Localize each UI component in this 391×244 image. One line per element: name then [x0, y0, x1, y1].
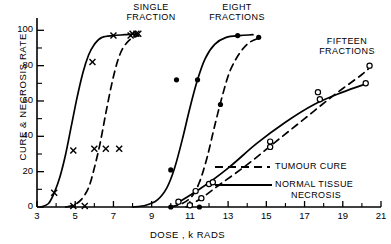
data-point-open	[176, 199, 181, 204]
legend-label-tumour-cure: TUMOUR CURE	[275, 161, 347, 172]
data-point-open	[199, 196, 204, 201]
data-point-open	[367, 63, 372, 68]
annotation-fifteen-fractions: FIFTEEN FRACTIONS	[308, 36, 386, 56]
data-point-filled	[256, 35, 261, 40]
data-point-filled	[168, 167, 173, 172]
y-tick-label: 20	[0, 165, 33, 176]
x-tick-label: 11	[180, 210, 200, 221]
y-tick-label: 100	[0, 23, 33, 34]
x-tick-label: 3	[27, 210, 47, 221]
x-tick-label: 15	[256, 210, 276, 221]
x-tick-label: 19	[333, 210, 353, 221]
y-tick-label: 60	[0, 94, 33, 105]
x-tick-label: 21	[371, 210, 391, 221]
data-point-open	[315, 90, 320, 95]
data-point-filled	[197, 204, 202, 209]
y-tick-label: 40	[0, 129, 33, 140]
annotation-eight-fractions: EIGHT FRACTIONS	[196, 2, 278, 22]
data-point-open	[317, 97, 322, 102]
annotation-single-fraction: SINGLE FRACTION	[112, 2, 190, 22]
y-tick-label: 80	[0, 59, 33, 70]
data-point-filled	[195, 77, 200, 82]
data-point-filled	[218, 102, 223, 107]
data-point-open	[268, 144, 273, 149]
x-axis-title: DOSE , k RADS	[150, 229, 225, 240]
data-point-filled	[174, 77, 179, 82]
data-point-open	[193, 188, 198, 193]
data-point-filled	[235, 33, 240, 38]
data-point-filled	[168, 204, 173, 209]
data-point-open	[187, 203, 192, 208]
x-tick-label: 9	[142, 210, 162, 221]
y-tick-label: 0	[0, 200, 33, 211]
data-point-open	[268, 139, 273, 144]
x-tick-label: 17	[295, 210, 315, 221]
series-curve	[66, 36, 139, 207]
data-point-open	[363, 81, 368, 86]
x-tick-label: 5	[65, 210, 85, 221]
legend-label-normal-tissue: NORMAL TISSUE	[275, 179, 353, 190]
series-curve	[133, 35, 253, 207]
legend-label-necrosis: NECROSIS	[291, 190, 341, 201]
x-tick-label: 7	[103, 210, 123, 221]
x-tick-label: 13	[218, 210, 238, 221]
data-point-open	[210, 180, 215, 185]
series-curve	[41, 34, 137, 207]
